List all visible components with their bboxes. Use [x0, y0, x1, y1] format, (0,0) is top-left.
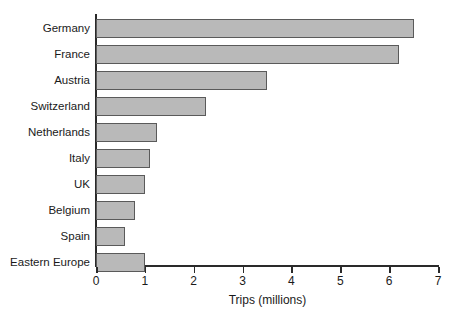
bar-category-label: France: [54, 45, 90, 64]
bar: [96, 71, 267, 90]
bar-row: Germany: [96, 19, 438, 38]
plot-area: GermanyFranceAustriaSwitzerlandNetherlan…: [96, 14, 438, 266]
bar: [96, 149, 150, 168]
x-tick-label: 1: [130, 274, 160, 288]
x-tick-label: 6: [374, 274, 404, 288]
x-tick-mark: [438, 267, 440, 273]
x-tick-label: 2: [179, 274, 209, 288]
x-tick-mark: [145, 267, 147, 273]
bar: [96, 19, 414, 38]
bar-row: Eastern Europe: [96, 253, 438, 272]
x-tick-mark: [243, 267, 245, 273]
bar-category-label: UK: [74, 175, 90, 194]
x-tick-mark: [194, 267, 196, 273]
bar-row: Switzerland: [96, 97, 438, 116]
bar-category-label: Belgium: [48, 201, 90, 220]
bar-row: Italy: [96, 149, 438, 168]
bar-category-label: Italy: [69, 149, 90, 168]
x-tick-label: 4: [276, 274, 306, 288]
bar-category-label: Spain: [61, 227, 90, 246]
bar-category-label: Eastern Europe: [10, 253, 90, 272]
bar-row: France: [96, 45, 438, 64]
x-tick-label: 5: [325, 274, 355, 288]
bar-category-label: Switzerland: [31, 97, 90, 116]
bar: [96, 123, 157, 142]
x-tick-mark: [340, 267, 342, 273]
bar-row: Belgium: [96, 201, 438, 220]
bar-row: Austria: [96, 71, 438, 90]
bar: [96, 97, 206, 116]
bar-category-label: Germany: [43, 19, 90, 38]
x-tick-mark: [291, 267, 293, 273]
bar-category-label: Netherlands: [28, 123, 90, 142]
bar-series: GermanyFranceAustriaSwitzerlandNetherlan…: [96, 14, 438, 266]
x-tick-label: 7: [423, 274, 453, 288]
bar: [96, 253, 145, 272]
x-tick-label: 3: [228, 274, 258, 288]
x-axis-title: Trips (millions): [96, 293, 439, 307]
bar-row: Netherlands: [96, 123, 438, 142]
bar: [96, 201, 135, 220]
bar-category-label: Austria: [54, 71, 90, 90]
bar-chart: GermanyFranceAustriaSwitzerlandNetherlan…: [0, 0, 463, 317]
bar: [96, 175, 145, 194]
x-tick-label: 0: [81, 274, 111, 288]
bar-row: Spain: [96, 227, 438, 246]
bar: [96, 45, 399, 64]
x-tick-mark: [389, 267, 391, 273]
x-tick-mark: [96, 267, 98, 273]
bar: [96, 227, 125, 246]
bar-row: UK: [96, 175, 438, 194]
